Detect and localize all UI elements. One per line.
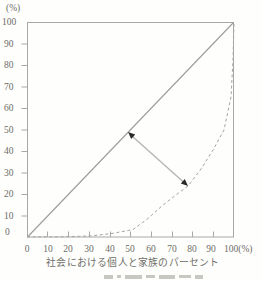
y-tick-label: 60: [4, 103, 14, 113]
y-tick-label: 90: [4, 39, 14, 49]
y-tick-label: 10: [4, 211, 14, 221]
x-axis-title: 社会における個人と家族のパーセント: [22, 255, 244, 269]
y-axis-unit-label: (%): [6, 3, 20, 13]
y-tick-label: 30: [4, 168, 14, 178]
truncated-figure-caption: [104, 275, 203, 279]
y-tick-label: 70: [4, 82, 14, 92]
y-tick-label: 50: [4, 125, 14, 135]
gap-arrow: [128, 132, 188, 186]
y-tick-label: 20: [4, 189, 14, 199]
lorenz-curve-figure: (%) 100 90 80 70 60 50 40 30 20 10 0 0 1…: [0, 0, 262, 281]
x-tick-label: 100(%): [224, 244, 253, 254]
plot-canvas: [0, 0, 262, 281]
y-tick-label: 40: [4, 146, 14, 156]
x-tick-label: 90: [199, 244, 223, 254]
y-tick-label: 100: [2, 17, 16, 27]
equality-line: [28, 23, 234, 238]
y-tick-label: 0: [5, 227, 10, 237]
y-tick-marks: [22, 44, 28, 216]
y-tick-label: 80: [4, 60, 14, 70]
